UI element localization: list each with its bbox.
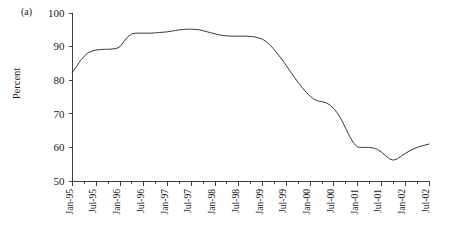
- figure-panel-a: (a) Percent 5060708090100 Jan-95Jul-95Ja…: [0, 0, 450, 238]
- x-tick-label: Jul-02: [420, 189, 431, 213]
- x-tick-label: Jul-00: [325, 189, 336, 213]
- line-chart: 5060708090100 Jan-95Jul-95Jan-96Jul-96Ja…: [0, 0, 450, 238]
- y-tick-label-group: 5060708090100: [48, 7, 65, 187]
- x-tick-label: Jan-00: [301, 189, 312, 215]
- x-tick-label: Jul-98: [230, 189, 241, 213]
- x-tick-label: Jan-96: [111, 189, 122, 215]
- x-tick-label: Jul-01: [372, 189, 383, 213]
- x-tick-label-group: Jan-95Jul-95Jan-96Jul-96Jan-97Jul-97Jan-…: [64, 189, 432, 215]
- y-tick-label: 70: [54, 108, 66, 120]
- x-tick-label: Jan-97: [159, 189, 170, 215]
- x-tick-label: Jan-98: [206, 189, 217, 215]
- series-line-percent: [73, 29, 430, 160]
- x-tick-label: Jul-95: [87, 189, 98, 213]
- y-tick-label: 100: [48, 7, 65, 19]
- y-tick-mark-group: [69, 13, 73, 181]
- y-tick-label: 90: [54, 40, 66, 52]
- y-tick-label: 50: [54, 175, 66, 187]
- x-tick-label: Jul-99: [277, 189, 288, 213]
- x-tick-label: Jul-97: [182, 189, 193, 213]
- x-tick-label: Jan-99: [254, 189, 265, 215]
- x-tick-label: Jul-96: [135, 189, 146, 213]
- x-tick-label: Jan-02: [396, 189, 407, 215]
- x-tick-label: Jan-01: [349, 189, 360, 215]
- y-tick-label: 80: [54, 74, 66, 86]
- x-tick-label: Jan-95: [64, 189, 75, 215]
- y-tick-label: 60: [54, 141, 66, 153]
